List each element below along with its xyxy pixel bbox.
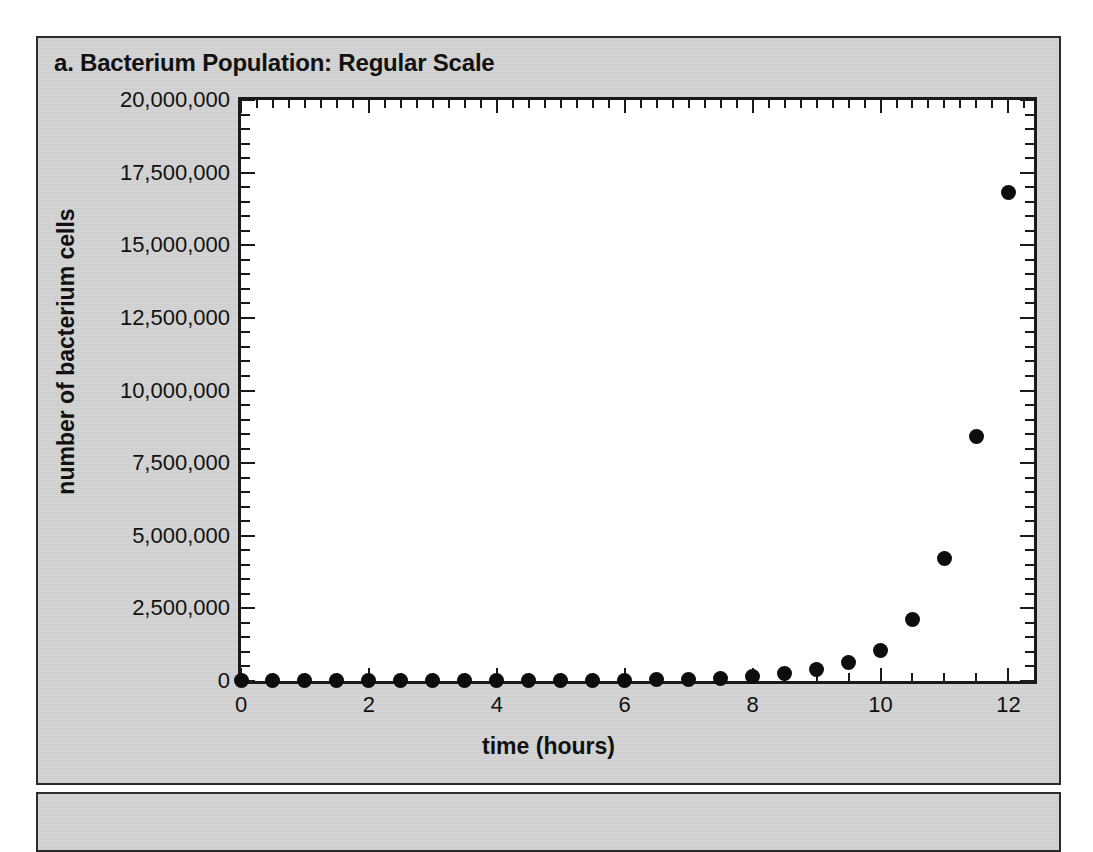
data-point	[713, 671, 728, 686]
y-axis-tick	[241, 564, 250, 566]
x-axis-tick-label: 4	[491, 692, 503, 718]
y-axis-tick	[241, 317, 255, 319]
chart-panel-a: a. Bacterium Population: Regular Scale n…	[36, 36, 1061, 785]
x-axis-title: time (hours)	[38, 733, 1059, 760]
x-axis-tick	[1007, 668, 1009, 681]
x-axis-minor-tick-top	[480, 100, 482, 108]
y-axis-tick-right	[1020, 317, 1034, 319]
y-axis-tick-right	[1025, 665, 1034, 667]
y-axis-tick	[241, 549, 250, 551]
data-point	[969, 429, 984, 444]
y-axis-tick	[241, 99, 255, 101]
y-axis-tick-right	[1020, 462, 1034, 464]
data-point	[905, 612, 920, 627]
y-axis-tick-label: 5,000,000	[132, 523, 230, 549]
y-axis-tick	[241, 143, 250, 145]
x-axis-tick-label: 10	[868, 692, 892, 718]
data-point	[585, 673, 600, 688]
x-axis-tick-top	[752, 100, 754, 113]
y-axis-tick	[241, 622, 250, 624]
y-axis-tick-right	[1025, 549, 1034, 551]
x-axis-minor-tick-top	[704, 100, 706, 108]
y-axis-tick	[241, 244, 255, 246]
y-axis-tick	[241, 375, 250, 377]
y-axis-tick	[241, 172, 255, 174]
x-axis-minor-tick-top	[544, 100, 546, 108]
y-axis-tick	[241, 230, 250, 232]
x-axis-minor-tick-top	[864, 100, 866, 108]
y-axis-tick	[241, 157, 250, 159]
data-point	[329, 673, 344, 688]
y-axis-tick-label: 0	[218, 668, 230, 694]
data-point	[937, 551, 952, 566]
x-axis-minor-tick-top	[384, 100, 386, 108]
y-axis-tick-right	[1025, 375, 1034, 377]
x-axis-tick-top	[592, 100, 594, 108]
y-axis-tick-right	[1025, 273, 1034, 275]
y-axis-tick	[241, 404, 250, 406]
x-axis-tick-top	[880, 100, 882, 113]
y-axis-tick-right	[1020, 680, 1034, 682]
y-axis-tick	[241, 259, 250, 261]
data-point	[361, 673, 376, 688]
y-axis-tick	[241, 433, 250, 435]
x-axis-tick-top	[911, 100, 913, 108]
y-axis-tick	[241, 128, 250, 130]
x-axis-tick-top	[560, 100, 562, 108]
data-point	[649, 672, 664, 687]
data-point	[553, 673, 568, 688]
data-point	[489, 673, 504, 688]
plot-area	[238, 97, 1037, 684]
y-axis-tick-right	[1025, 564, 1034, 566]
y-axis-title: number of bacterium cells	[53, 182, 80, 522]
x-axis-tick-top	[656, 100, 658, 108]
data-point	[841, 655, 856, 670]
x-axis-tick-top	[1007, 100, 1009, 113]
x-axis-tick-top	[336, 100, 338, 108]
y-axis-tick-right	[1025, 651, 1034, 653]
y-axis-tick-right	[1020, 244, 1034, 246]
y-axis-tick	[241, 273, 250, 275]
y-axis-tick-right	[1025, 491, 1034, 493]
x-axis-minor-tick-top	[576, 100, 578, 108]
x-axis-tick-top	[688, 100, 690, 108]
data-point	[1001, 185, 1016, 200]
x-axis-minor-tick-top	[768, 100, 770, 108]
data-point	[777, 666, 792, 681]
y-axis-tick	[241, 201, 250, 203]
x-axis-tick	[848, 673, 850, 681]
y-axis-tick-label: 15,000,000	[120, 232, 230, 258]
data-point	[234, 673, 249, 688]
plot-canvas	[241, 100, 1034, 681]
y-axis-tick-label: 17,500,000	[120, 160, 230, 186]
y-axis-tick-right	[1025, 622, 1034, 624]
y-axis-tick-right	[1025, 448, 1034, 450]
y-axis-tick-right	[1025, 636, 1034, 638]
y-axis-tick	[241, 390, 255, 392]
y-axis-tick	[241, 419, 250, 421]
y-axis-tick-label: 12,500,000	[120, 305, 230, 331]
y-axis-tick-labels: 02,500,0005,000,0007,500,00010,000,00012…	[88, 97, 230, 684]
x-axis-tick-label: 6	[619, 692, 631, 718]
x-axis-tick-label: 12	[996, 692, 1020, 718]
y-axis-tick	[241, 607, 255, 609]
y-axis-tick-right	[1020, 99, 1034, 101]
x-axis-minor-tick-top	[800, 100, 802, 108]
x-axis-tick-top	[943, 100, 945, 108]
x-axis-tick-top	[368, 100, 370, 113]
y-axis-tick-right	[1025, 288, 1034, 290]
y-axis-tick-right	[1025, 201, 1034, 203]
x-axis-tick-label: 8	[746, 692, 758, 718]
x-axis-minor-tick-top	[512, 100, 514, 108]
y-axis-tick-right	[1025, 157, 1034, 159]
x-axis-minor-tick-top	[288, 100, 290, 108]
x-axis-minor-tick-top	[256, 100, 258, 108]
y-axis-tick-right	[1025, 302, 1034, 304]
y-axis-tick	[241, 665, 250, 667]
y-axis-tick	[241, 302, 250, 304]
y-axis-tick-right	[1025, 114, 1034, 116]
y-axis-tick-right	[1025, 215, 1034, 217]
x-axis-minor-tick-top	[672, 100, 674, 108]
x-axis-tick	[880, 668, 882, 681]
